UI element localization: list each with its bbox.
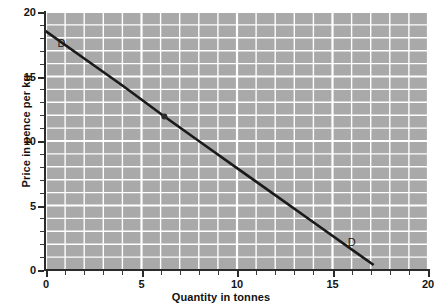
series-markers bbox=[161, 113, 167, 119]
demand-curve-label-top: D bbox=[57, 37, 65, 49]
x-tick-major bbox=[428, 271, 430, 277]
y-tick-major bbox=[38, 12, 44, 14]
x-tick-minor bbox=[65, 271, 66, 275]
x-tick-minor bbox=[313, 271, 314, 275]
x-tick-label: 10 bbox=[222, 278, 252, 291]
x-tick-minor bbox=[352, 271, 353, 275]
plot-area: D D bbox=[46, 12, 428, 270]
x-tick-minor bbox=[256, 271, 257, 275]
x-tick-major bbox=[237, 271, 239, 277]
x-tick-minor bbox=[199, 271, 200, 275]
x-tick-minor bbox=[390, 271, 391, 275]
y-tick-minor bbox=[40, 193, 44, 194]
y-tick-minor bbox=[40, 25, 44, 26]
demand-curve-label-bottom: D bbox=[348, 236, 356, 248]
equilibrium-point bbox=[161, 113, 167, 119]
x-tick-minor bbox=[371, 271, 372, 275]
y-axis-spine bbox=[44, 11, 46, 271]
x-tick-label: 20 bbox=[413, 278, 442, 291]
y-tick-major bbox=[38, 270, 44, 272]
y-tick-major bbox=[38, 141, 44, 143]
x-tick-minor bbox=[294, 271, 295, 275]
x-tick-minor bbox=[84, 271, 85, 275]
y-tick-minor bbox=[40, 64, 44, 65]
y-tick-minor bbox=[40, 167, 44, 168]
y-tick-minor bbox=[40, 89, 44, 90]
y-tick-major bbox=[38, 77, 44, 79]
y-axis-title: Price in pence per kg bbox=[20, 41, 32, 221]
y-tick-minor bbox=[40, 102, 44, 103]
y-tick-minor bbox=[40, 257, 44, 258]
x-tick-label: 5 bbox=[127, 278, 157, 291]
y-tick-minor bbox=[40, 218, 44, 219]
demand-curve-chart: D D 0510152005101520 Quantity in tonnes … bbox=[0, 0, 442, 306]
x-tick-minor bbox=[409, 271, 410, 275]
y-tick-minor bbox=[40, 128, 44, 129]
x-tick-minor bbox=[218, 271, 219, 275]
x-tick-minor bbox=[122, 271, 123, 275]
x-tick-minor bbox=[180, 271, 181, 275]
demand-series bbox=[46, 12, 428, 270]
y-tick-major bbox=[38, 206, 44, 208]
y-tick-label: 20 bbox=[12, 6, 36, 18]
x-tick-minor bbox=[275, 271, 276, 275]
x-tick-major bbox=[333, 271, 335, 277]
y-tick-minor bbox=[40, 180, 44, 181]
y-tick-minor bbox=[40, 244, 44, 245]
x-tick-label: 15 bbox=[318, 278, 348, 291]
y-tick-label: 0 bbox=[12, 264, 36, 276]
y-tick-minor bbox=[40, 115, 44, 116]
x-axis-title: Quantity in tonnes bbox=[0, 291, 442, 303]
y-tick-minor bbox=[40, 154, 44, 155]
x-tick-major bbox=[142, 271, 144, 277]
x-tick-minor bbox=[161, 271, 162, 275]
x-tick-minor bbox=[103, 271, 104, 275]
y-tick-minor bbox=[40, 38, 44, 39]
x-tick-label: 0 bbox=[31, 278, 61, 291]
y-tick-minor bbox=[40, 231, 44, 232]
y-tick-minor bbox=[40, 51, 44, 52]
x-tick-major bbox=[46, 271, 48, 277]
demand-line bbox=[46, 31, 373, 264]
